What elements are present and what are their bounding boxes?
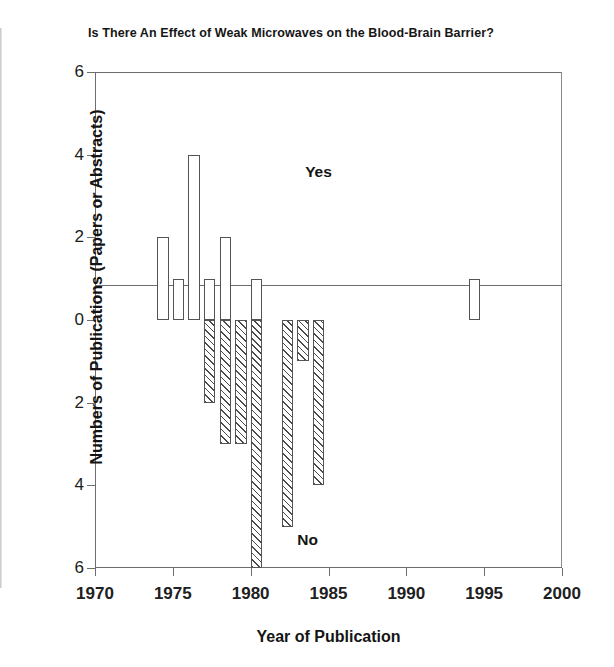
y-tick-label: 6 (75, 558, 84, 578)
scan-edge-artifact (0, 28, 2, 588)
x-tick (173, 568, 174, 576)
y-tick-label: 0 (75, 310, 84, 330)
x-tick-label: 1995 (465, 584, 503, 604)
y-tick-label: 4 (75, 475, 84, 495)
bar-yes-1977 (204, 279, 216, 320)
x-tick (329, 568, 330, 576)
y-tick-label: 2 (75, 393, 84, 413)
plot-border-top (95, 72, 562, 73)
x-tick (484, 568, 485, 576)
bar-yes-1976 (188, 155, 200, 320)
annotation-yes: Yes (305, 163, 332, 181)
annotation-no: No (297, 531, 318, 549)
bar-yes-1980 (251, 279, 263, 320)
bar-no-1983 (297, 320, 309, 361)
x-tick-label: 1985 (310, 584, 348, 604)
x-tick (95, 568, 96, 576)
y-tick (87, 568, 95, 569)
x-tick-label: 2000 (543, 584, 581, 604)
y-tick-label: 4 (75, 145, 84, 165)
bar-yes-1978 (220, 237, 232, 320)
bar-no-1978 (220, 320, 232, 444)
bar-yes-1975 (173, 279, 185, 320)
y-tick-label: 2 (75, 227, 84, 247)
x-tick-label: 1980 (232, 584, 270, 604)
bar-no-1979 (235, 320, 247, 444)
plot-border-right (561, 72, 562, 568)
plot-area: 6420246 1970197519801985199019952000 Yes… (95, 72, 562, 568)
bar-no-1977 (204, 320, 216, 403)
chart-figure: Is There An Effect of Weak Microwaves on… (0, 0, 614, 667)
bar-no-1982 (282, 320, 294, 527)
x-tick (406, 568, 407, 576)
x-tick (562, 568, 563, 576)
bar-no-1984 (313, 320, 325, 485)
bar-yes-1994 (469, 279, 481, 320)
bar-yes-1974 (157, 237, 169, 320)
y-axis-label: Numbers of Publications (Papers or Abstr… (88, 17, 106, 557)
x-axis-label: Year of Publication (95, 628, 562, 646)
y-tick-label: 6 (75, 62, 84, 82)
x-tick-label: 1970 (76, 584, 114, 604)
x-tick-label: 1975 (154, 584, 192, 604)
chart-title: Is There An Effect of Weak Microwaves on… (88, 26, 608, 40)
bar-no-1980 (251, 320, 263, 568)
x-tick (251, 568, 252, 576)
x-tick-label: 1990 (387, 584, 425, 604)
